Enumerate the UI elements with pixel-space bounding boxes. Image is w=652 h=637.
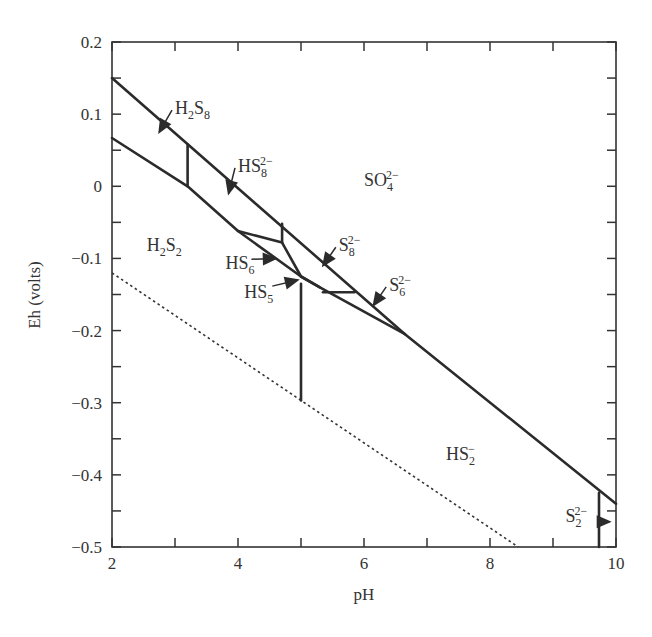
x-tick-label: 10 (608, 554, 625, 573)
species-label: H2S2 (147, 235, 182, 259)
y-tick-label: −0.5 (71, 538, 102, 557)
arrow-icon (284, 277, 300, 290)
arrow-icon (158, 118, 171, 134)
eh-ph-diagram: 246810 0.20.10−0.1−0.2−0.3−0.4−0.5 SO42−… (0, 0, 652, 637)
x-tick-label: 4 (234, 554, 243, 573)
boundary-lines (112, 78, 616, 547)
species-label: HS2− (446, 442, 475, 468)
x-tick-label: 6 (360, 554, 369, 573)
species-label: SO42− (364, 168, 399, 194)
species-label: S22− (566, 504, 588, 530)
species-label: H2S8 (175, 98, 210, 122)
boundary-line (112, 78, 616, 504)
species-label: S82− (339, 233, 361, 259)
y-tick-label: −0.3 (71, 394, 102, 413)
arrow-icon (372, 291, 386, 307)
y-tick-label: 0.2 (81, 33, 102, 52)
y-tick-label: −0.4 (71, 466, 102, 485)
x-axis-title: pH (354, 585, 375, 604)
boundary-line (112, 273, 518, 547)
arrow-icon (597, 515, 612, 528)
y-tick-label: 0.1 (81, 105, 102, 124)
y-tick-labels: 0.20.10−0.1−0.2−0.3−0.4−0.5 (71, 33, 102, 557)
species-label: HS82− (238, 154, 273, 180)
y-tick-label: −0.2 (71, 322, 102, 341)
y-tick-label: −0.1 (71, 249, 102, 268)
y-axis-title: Eh (volts) (25, 261, 44, 329)
species-label: HS6 (225, 253, 254, 277)
x-tick-label: 2 (108, 554, 117, 573)
x-tick-labels: 246810 (108, 554, 625, 573)
species-label: S62− (389, 273, 411, 299)
species-label: HS5 (244, 282, 273, 306)
arrow-icon (322, 251, 336, 267)
x-tick-label: 8 (486, 554, 495, 573)
y-tick-label: 0 (94, 177, 103, 196)
